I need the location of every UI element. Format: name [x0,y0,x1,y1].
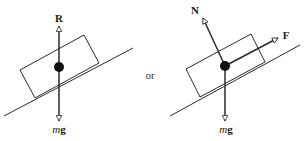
center-of-mass-dot [220,61,230,71]
left-diagram: R mg [4,12,133,135]
reaction-label: R [55,12,64,24]
force-diagram: R mg or N F mg [0,0,308,141]
normal-label: N [191,4,199,16]
normal-force-arrow [203,18,225,66]
center-of-mass-dot [54,62,64,72]
weight-label: mg [52,123,66,135]
incline-surface-line [4,48,133,116]
separator-or: or [145,69,155,81]
weight-label: mg [219,123,233,135]
friction-label: F [283,29,290,41]
incline-surface-line [170,45,300,116]
right-diagram: N F mg [170,4,300,135]
